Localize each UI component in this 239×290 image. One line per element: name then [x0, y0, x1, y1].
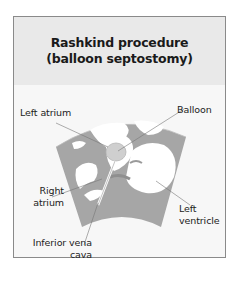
- figure-title-line-2: (balloon septostomy): [46, 51, 192, 67]
- figure-title-line-1: Rashkind procedure: [51, 35, 189, 51]
- label-ivc-line-2: cava: [18, 249, 92, 261]
- label-ivc-line-1: Inferior vena: [18, 237, 92, 249]
- label-balloon: Balloon: [177, 104, 212, 116]
- label-left-ventricle-line-2: ventricle: [179, 215, 220, 227]
- heart-echo-diagram: Left atrium Balloon Right atrium Left ve…: [14, 85, 225, 257]
- figure-panel: Rashkind procedure (balloon septostomy): [13, 16, 226, 258]
- figure-header: Rashkind procedure (balloon septostomy): [14, 17, 225, 85]
- label-left-ventricle-line-1: Left: [179, 203, 196, 215]
- balloon-shape: [106, 143, 126, 161]
- label-right-atrium-line-1: Right: [26, 185, 64, 197]
- label-right-atrium-line-2: atrium: [26, 197, 64, 209]
- left-ventricle-chamber: [126, 143, 176, 193]
- label-left-atrium: Left atrium: [20, 107, 71, 119]
